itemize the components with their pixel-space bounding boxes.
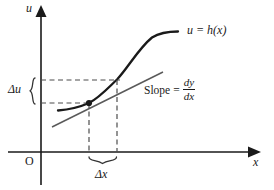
y-axis-arrowhead [36, 5, 47, 17]
x-axis-label: x [253, 156, 258, 168]
derivative-fraction: dy dx [183, 77, 195, 102]
derivative-tangent-figure: u x O Δu Δx u = h(x) Slope = dy dx [0, 0, 274, 190]
delta-u-label: Δu [8, 83, 21, 95]
slope-word: Slope [144, 85, 170, 97]
slope-annotation: Slope = dy dx [144, 78, 195, 103]
delta-x-label: Δx [95, 168, 107, 180]
figure-canvas [0, 0, 274, 190]
slope-equals: = [173, 85, 180, 97]
fraction-numerator: dy [183, 77, 195, 89]
tangent-point-marker [86, 100, 92, 106]
delta-x-brace [89, 157, 117, 164]
y-axis-label: u [26, 2, 32, 14]
delta-u-brace [30, 78, 35, 104]
fraction-denominator: dx [183, 90, 195, 102]
origin-label: O [25, 155, 34, 167]
curve-label: u = h(x) [187, 24, 226, 36]
